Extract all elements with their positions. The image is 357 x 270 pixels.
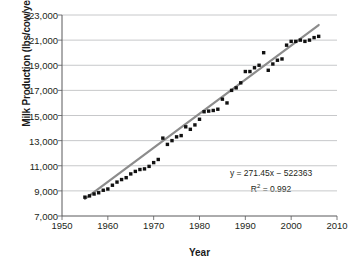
data-point bbox=[276, 59, 279, 62]
data-point bbox=[299, 38, 302, 41]
data-point bbox=[257, 64, 260, 67]
data-point bbox=[216, 108, 219, 111]
data-point bbox=[184, 125, 187, 128]
data-point bbox=[289, 40, 292, 43]
data-point bbox=[239, 81, 242, 84]
data-point bbox=[88, 194, 91, 197]
data-point bbox=[129, 172, 132, 175]
data-point bbox=[253, 66, 256, 69]
data-point bbox=[285, 43, 288, 46]
x-tick-marks bbox=[62, 216, 337, 220]
data-point bbox=[271, 62, 274, 65]
data-point bbox=[280, 57, 283, 60]
data-point bbox=[147, 165, 150, 168]
data-point bbox=[267, 69, 270, 72]
data-point bbox=[102, 189, 105, 192]
data-point bbox=[120, 178, 123, 181]
data-point bbox=[317, 35, 320, 38]
data-point bbox=[312, 36, 315, 39]
data-point bbox=[92, 192, 95, 195]
data-point bbox=[115, 180, 118, 183]
data-point bbox=[207, 109, 210, 112]
data-point bbox=[248, 70, 251, 73]
data-point bbox=[143, 167, 146, 170]
y-tick-marks bbox=[58, 15, 62, 216]
data-point bbox=[189, 128, 192, 131]
data-point bbox=[294, 40, 297, 43]
milk-production-scatter-chart: Milk Production (lbs/cow/year) 23,000 21… bbox=[0, 0, 357, 270]
data-point bbox=[106, 187, 109, 190]
regression-trendline bbox=[85, 25, 319, 199]
data-point bbox=[138, 168, 141, 171]
data-point bbox=[221, 97, 224, 100]
data-point bbox=[212, 109, 215, 112]
data-point bbox=[202, 110, 205, 113]
data-point bbox=[230, 89, 233, 92]
data-point bbox=[166, 143, 169, 146]
data-point bbox=[303, 40, 306, 43]
data-point bbox=[83, 195, 86, 198]
data-point bbox=[170, 139, 173, 142]
data-point bbox=[97, 191, 100, 194]
data-point bbox=[262, 51, 265, 54]
data-point bbox=[124, 176, 127, 179]
plot-area bbox=[0, 0, 357, 270]
data-point bbox=[244, 70, 247, 73]
data-point bbox=[234, 86, 237, 89]
data-point bbox=[198, 118, 201, 121]
data-point bbox=[225, 101, 228, 104]
data-point bbox=[179, 134, 182, 137]
data-point bbox=[161, 136, 164, 139]
data-point bbox=[308, 38, 311, 41]
data-point bbox=[111, 184, 114, 187]
data-point bbox=[193, 123, 196, 126]
data-point bbox=[175, 135, 178, 138]
data-point bbox=[152, 161, 155, 164]
data-point bbox=[134, 170, 137, 173]
data-point bbox=[157, 158, 160, 161]
